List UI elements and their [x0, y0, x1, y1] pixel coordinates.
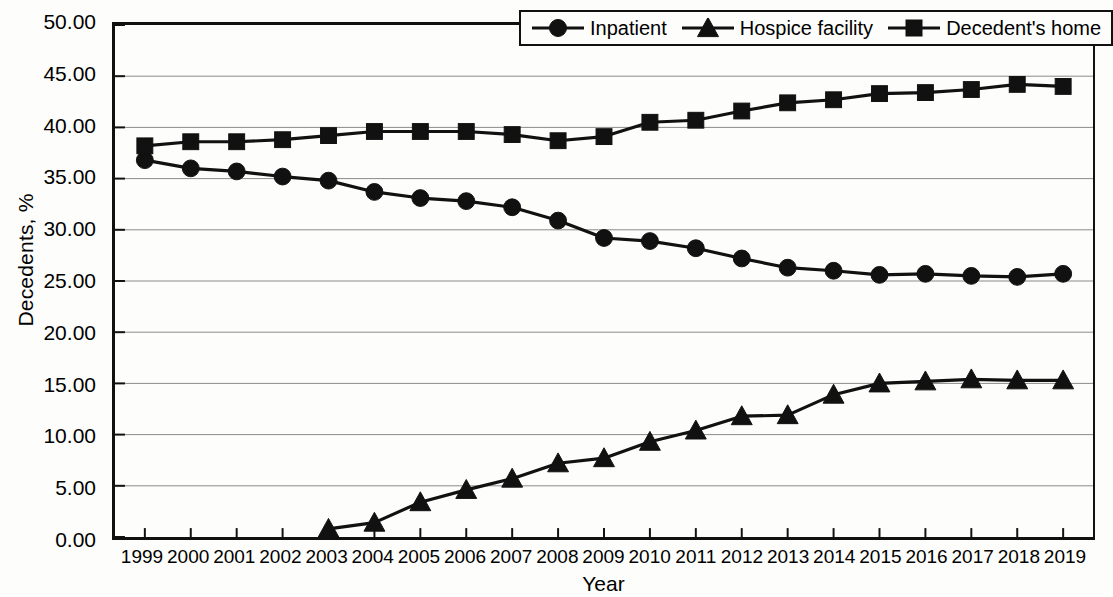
square-legend-marker-icon — [887, 18, 941, 38]
x-axis-tick-label: 2018 — [998, 546, 1040, 568]
square-data-marker — [780, 95, 796, 111]
y-axis-tick-label: 35.00 — [0, 165, 104, 189]
square-data-marker — [183, 134, 199, 150]
square-data-marker — [734, 103, 750, 119]
circle-data-marker — [825, 262, 842, 279]
circle-data-marker — [182, 160, 199, 177]
triangle-data-marker — [364, 512, 385, 531]
square-data-marker — [229, 134, 245, 150]
y-axis-tick-label: 0.00 — [0, 528, 104, 552]
x-axis-tick-label: 2001 — [213, 546, 255, 568]
circle-data-marker — [1009, 269, 1026, 286]
chart-legend: InpatientHospice facilityDecedent's home — [519, 10, 1113, 46]
square-data-marker — [275, 132, 291, 148]
y-axis-tick-label: 40.00 — [0, 114, 104, 138]
y-axis-tick-label: 20.00 — [0, 321, 104, 345]
square-data-marker — [688, 112, 704, 128]
y-axis-tick-label: 25.00 — [0, 269, 104, 293]
x-axis-tick-label: 2008 — [536, 546, 578, 568]
legend-item-label: Hospice facility — [740, 18, 873, 38]
circle-data-marker — [366, 184, 383, 201]
legend-item-label: Inpatient — [590, 18, 667, 38]
circle-data-marker — [320, 172, 337, 189]
x-axis-tick-label: 2011 — [675, 546, 716, 568]
x-axis-tick-label: 2019 — [1044, 546, 1086, 568]
x-axis-tick-label: 2014 — [813, 546, 855, 568]
circle-data-marker — [779, 259, 796, 276]
plot-svg — [115, 25, 1093, 537]
legend-item: Inpatient — [531, 18, 667, 38]
x-axis-tick-label: 2010 — [629, 546, 671, 568]
y-axis-tick-label: 30.00 — [0, 217, 104, 241]
x-axis-tick-label: 2004 — [352, 546, 394, 568]
square-data-marker — [137, 138, 153, 154]
y-axis-tick-label: 10.00 — [0, 424, 104, 448]
legend-item: Hospice facility — [681, 18, 873, 38]
x-axis-tick-label: 2002 — [259, 546, 301, 568]
circle-data-marker — [550, 212, 567, 229]
square-data-marker — [458, 124, 474, 140]
x-axis-tick-label: 2017 — [952, 546, 994, 568]
circle-data-marker — [687, 240, 704, 257]
y-axis-tick-label: 45.00 — [0, 62, 104, 86]
x-axis-tick-label: 2009 — [582, 546, 624, 568]
square-data-marker — [321, 128, 337, 144]
square-data-marker — [963, 82, 979, 98]
x-axis-tick-label: 2007 — [490, 546, 532, 568]
square-data-marker — [596, 129, 612, 145]
circle-data-marker — [596, 230, 613, 247]
x-axis-tick-label: 2013 — [767, 546, 809, 568]
circle-data-marker — [1055, 265, 1072, 282]
x-axis-tick-label: 2005 — [398, 546, 440, 568]
x-axis-title: Year — [112, 572, 1095, 596]
circle-data-marker — [917, 265, 934, 282]
square-data-marker — [826, 92, 842, 108]
y-axis-tick-label: 50.00 — [0, 10, 104, 34]
circle-data-marker — [871, 266, 888, 283]
circle-data-marker — [458, 193, 475, 210]
circle-data-marker — [641, 233, 658, 250]
circle-legend-marker-icon — [531, 18, 585, 38]
x-axis-tick-label: 2000 — [167, 546, 209, 568]
circle-data-marker — [550, 20, 567, 37]
plot-area — [112, 22, 1095, 540]
circle-data-marker — [412, 190, 429, 207]
square-data-marker — [917, 85, 933, 101]
square-data-marker — [906, 20, 922, 36]
square-data-marker — [366, 124, 382, 140]
x-axis-tick-label: 2016 — [905, 546, 947, 568]
square-data-marker — [642, 114, 658, 130]
circle-data-marker — [504, 199, 521, 216]
circle-data-marker — [228, 163, 245, 180]
y-axis-tick-label: 5.00 — [0, 476, 104, 500]
circle-data-marker — [274, 168, 291, 185]
x-axis-tick-label: 2012 — [721, 546, 763, 568]
square-data-marker — [1055, 79, 1071, 95]
circle-data-marker — [136, 152, 153, 169]
x-axis-tick-label: 1999 — [121, 546, 163, 568]
square-data-marker — [1009, 76, 1025, 92]
square-data-marker — [504, 127, 520, 143]
circle-data-marker — [733, 250, 750, 267]
circle-data-marker — [963, 267, 980, 284]
square-data-marker — [550, 133, 566, 149]
series-line — [329, 379, 1064, 529]
y-axis-tick-labels: 0.005.0010.0015.0020.0025.0030.0035.0040… — [0, 0, 104, 597]
y-axis-tick-label: 15.00 — [0, 373, 104, 397]
square-data-marker — [872, 86, 888, 102]
x-axis-tick-label: 2006 — [444, 546, 486, 568]
legend-item: Decedent's home — [887, 18, 1101, 38]
triangle-legend-marker-icon — [681, 18, 735, 38]
x-axis-tick-label: 2015 — [859, 546, 901, 568]
square-data-marker — [412, 124, 428, 140]
legend-item-label: Decedent's home — [946, 18, 1101, 38]
x-axis-tick-label: 2003 — [305, 546, 347, 568]
